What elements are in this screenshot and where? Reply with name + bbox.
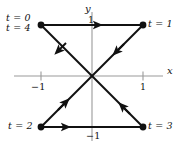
arrow-segment-t1-to-t2	[116, 44, 124, 52]
vertex-dot-t0-t4	[38, 22, 45, 29]
axis-lines	[14, 12, 163, 141]
arrow-segment-t1-to-t2-lower	[58, 102, 66, 110]
x-tick-label-negative-one: −1	[31, 82, 45, 92]
point-label-t4: t = 4	[6, 23, 31, 33]
point-label-t3: t = 3	[148, 121, 173, 131]
y-axis-label: y	[85, 4, 91, 15]
x-axis-label: x	[167, 66, 173, 77]
arrow-segment-t3-to-t4-lower	[122, 106, 130, 114]
point-label-t2: t = 2	[8, 121, 33, 131]
vertex-dot-t1	[140, 22, 147, 29]
y-tick-label-negative-one: −1	[86, 131, 100, 141]
vertex-dot-t3	[140, 124, 147, 131]
parametric-plot-figure: t = 0 t = 4 t = 1 t = 2 t = 3 y x 1 −1 −…	[0, 0, 186, 151]
vertex-dot-t2	[38, 124, 45, 131]
y-tick-label-positive-one: 1	[88, 15, 94, 25]
point-label-t1: t = 1	[148, 19, 173, 29]
x-tick-label-positive-one: 1	[140, 82, 146, 92]
